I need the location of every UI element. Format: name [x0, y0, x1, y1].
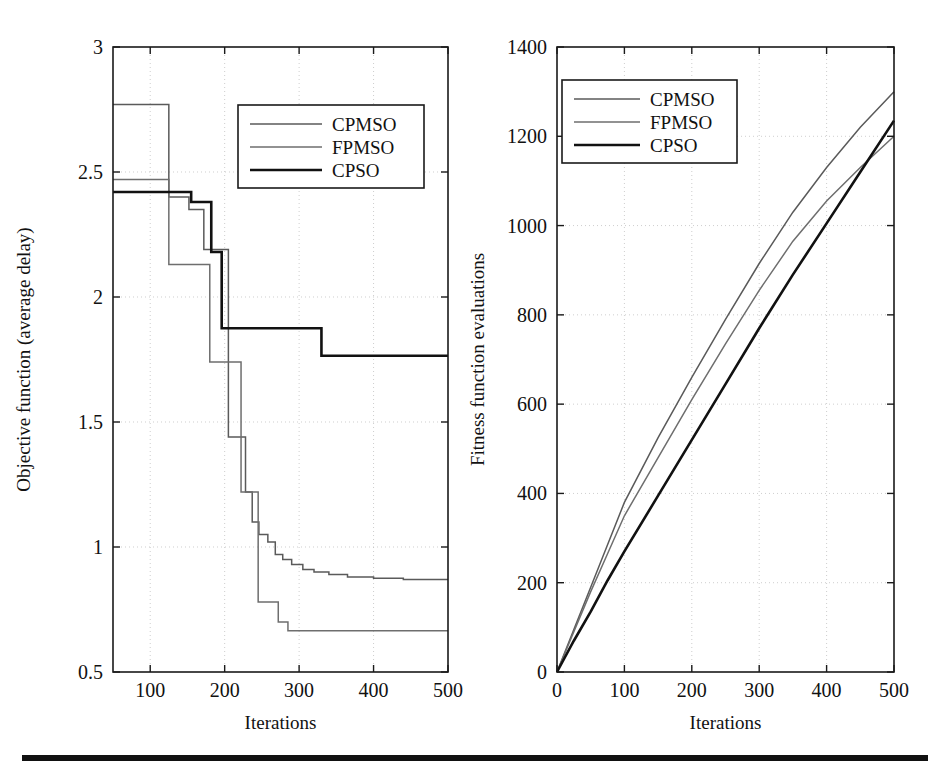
- series-line-cpso: [113, 192, 448, 356]
- figure-container: 0.511.522.53100200300400500IterationsObj…: [0, 0, 949, 777]
- fitness-evaluations-panel: 0200400600800100012001400010020030040050…: [462, 0, 949, 735]
- y-tick-label: 1000: [507, 215, 547, 237]
- objective-function-panel: 0.511.522.53100200300400500IterationsObj…: [0, 0, 475, 735]
- y-tick-label: 1.5: [78, 411, 103, 433]
- y-tick-label: 200: [517, 572, 547, 594]
- series-line-fpmso: [113, 180, 448, 631]
- x-tick-label: 500: [879, 679, 909, 701]
- legend-label-fpmso: FPMSO: [332, 137, 394, 158]
- x-tick-label: 100: [135, 679, 165, 701]
- x-tick-label: 200: [677, 679, 707, 701]
- x-tick-label: 100: [609, 679, 639, 701]
- y-tick-label: 0: [537, 661, 547, 683]
- x-axis-title: Iterations: [690, 712, 762, 733]
- y-tick-label: 1400: [507, 36, 547, 58]
- legend-label-cpso: CPSO: [332, 160, 380, 181]
- x-tick-label: 0: [552, 679, 562, 701]
- y-tick-label: 0.5: [78, 661, 103, 683]
- x-tick-label: 500: [433, 679, 463, 701]
- series-line-cpso: [557, 121, 894, 672]
- objective-function-chart: 0.511.522.53100200300400500IterationsObj…: [0, 0, 475, 735]
- x-tick-label: 400: [359, 679, 389, 701]
- legend-label-fpmso: FPMSO: [650, 112, 712, 133]
- fitness-evaluations-chart: 0200400600800100012001400010020030040050…: [462, 0, 949, 735]
- legend-label-cpmso: CPMSO: [332, 114, 396, 135]
- y-tick-label: 1: [93, 536, 103, 558]
- y-tick-label: 1200: [507, 125, 547, 147]
- y-axis-title: Objective function (average delay): [13, 227, 35, 491]
- y-tick-label: 400: [517, 482, 547, 504]
- y-tick-label: 2.5: [78, 161, 103, 183]
- y-tick-label: 3: [93, 36, 103, 58]
- x-axis-title: Iterations: [245, 712, 317, 733]
- bottom-divider-rule: [22, 755, 928, 761]
- x-tick-label: 400: [812, 679, 842, 701]
- legend-label-cpmso: CPMSO: [650, 89, 714, 110]
- legend-label-cpso: CPSO: [650, 135, 698, 156]
- x-tick-label: 300: [284, 679, 314, 701]
- y-tick-label: 800: [517, 304, 547, 326]
- x-tick-label: 200: [210, 679, 240, 701]
- y-tick-label: 600: [517, 393, 547, 415]
- x-tick-label: 300: [744, 679, 774, 701]
- y-tick-label: 2: [93, 286, 103, 308]
- y-axis-title: Fitness function evaluations: [467, 253, 488, 466]
